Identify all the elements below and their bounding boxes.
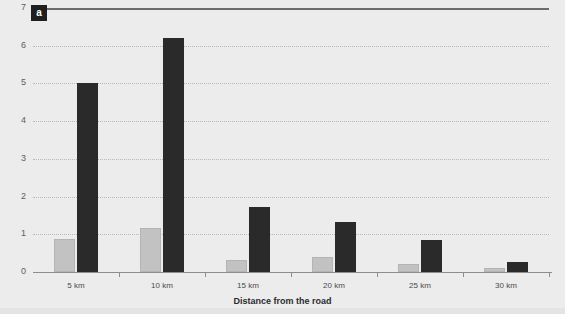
y-tick-label: 6 (4, 41, 26, 50)
bar-light-10-km (140, 228, 161, 272)
y-tick-label: 5 (4, 78, 26, 87)
x-tick-label: 30 km (474, 281, 538, 290)
x-tick (291, 272, 292, 277)
bar-light-30-km (484, 268, 505, 272)
y-tick-label: 3 (4, 154, 26, 163)
x-axis-line (33, 272, 552, 273)
bar-dark-30-km (507, 262, 528, 272)
y-tick-label: 7 (4, 3, 26, 12)
x-axis-title: Distance from the road (0, 296, 565, 306)
x-tick-label: 25 km (388, 281, 452, 290)
chart-screenshot: 01234567 5 km10 km15 km20 km25 km30 km D… (0, 0, 565, 314)
y-tick-label: 1 (4, 229, 26, 238)
x-tick (205, 272, 206, 277)
bar-light-20-km (312, 257, 333, 272)
bar-light-5-km (54, 239, 75, 272)
x-tick (377, 272, 378, 277)
bottom-strip (0, 308, 565, 314)
x-tick (463, 272, 464, 277)
bar-dark-20-km (335, 222, 356, 272)
y-tick-label: 0 (4, 267, 26, 276)
x-tick-label: 15 km (216, 281, 280, 290)
x-tick (119, 272, 120, 277)
bar-dark-15-km (249, 207, 270, 272)
bar-dark-25-km (421, 240, 442, 272)
x-tick-label: 5 km (44, 281, 108, 290)
panel-label-a: a (31, 5, 47, 21)
y-tick-label: 4 (4, 116, 26, 125)
y-tick-label: 2 (4, 192, 26, 201)
x-tick-label: 10 km (130, 281, 194, 290)
bar-light-15-km (226, 260, 247, 272)
x-tick-label: 20 km (302, 281, 366, 290)
bar-light-25-km (398, 264, 419, 272)
bar-dark-10-km (163, 38, 184, 272)
bars-layer (33, 8, 549, 272)
bar-dark-5-km (77, 83, 98, 272)
x-tick (549, 272, 550, 277)
